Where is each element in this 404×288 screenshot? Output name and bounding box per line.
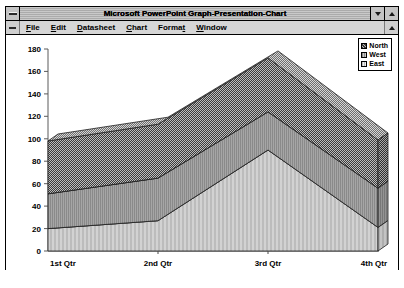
- menu-item-chart[interactable]: Chart: [126, 21, 147, 34]
- minimize-glyph: [375, 12, 381, 16]
- menu-bar: File Edit Datasheet Chart Format Window: [6, 21, 398, 35]
- page-caption: [8, 274, 398, 286]
- restore-glyph: [389, 26, 395, 30]
- legend-label-west: West: [369, 50, 386, 59]
- system-menu-icon[interactable]: [6, 7, 20, 20]
- legend-label-east: East: [369, 59, 384, 68]
- x-tick-label-1: 2nd Qtr: [144, 259, 172, 268]
- legend-swatch-west: [361, 52, 367, 58]
- svg-text:0: 0: [37, 247, 42, 256]
- maximize-icon[interactable]: [384, 7, 398, 20]
- legend-entry-west[interactable]: West: [361, 50, 388, 59]
- svg-text:100: 100: [28, 135, 42, 144]
- menu-item-window[interactable]: Window: [196, 21, 227, 34]
- application-window: Microsoft PowerPoint Graph-Presentation-…: [5, 6, 399, 270]
- svg-text:60: 60: [32, 180, 41, 189]
- screenshot-root: Microsoft PowerPoint Graph-Presentation-…: [0, 0, 404, 288]
- maximize-glyph: [389, 12, 395, 16]
- legend-entry-north[interactable]: North: [361, 41, 388, 50]
- document-system-menu-glyph: [9, 27, 16, 29]
- window-buttons: [370, 7, 398, 20]
- menu-item-file[interactable]: File: [26, 21, 40, 34]
- minimize-icon[interactable]: [370, 7, 384, 20]
- x-axis-tick-labels: 1st Qtr 2nd Qtr 3rd Qtr 4th Qtr: [50, 259, 387, 268]
- chart-canvas[interactable]: 0 20 40 60 80 100 120 140 160 180: [6, 35, 398, 271]
- menu-item-list: File Edit Datasheet Chart Format Window: [20, 21, 384, 34]
- x-tick-label-3: 4th Qtr: [361, 259, 387, 268]
- svg-text:140: 140: [28, 90, 42, 99]
- y-axis-tick-labels: 0 20 40 60 80 100 120 140 160 180: [28, 45, 42, 256]
- restore-icon[interactable]: [384, 21, 398, 34]
- svg-text:20: 20: [32, 225, 41, 234]
- menu-item-datasheet[interactable]: Datasheet: [77, 21, 115, 34]
- svg-text:120: 120: [28, 112, 42, 121]
- chart-legend[interactable]: North West East: [358, 38, 392, 71]
- y-axis-ticks: [44, 49, 48, 251]
- legend-swatch-north: [361, 43, 367, 49]
- menu-item-format[interactable]: Format: [158, 21, 185, 34]
- system-menu-glyph: [9, 12, 17, 15]
- chart-client-area: 0 20 40 60 80 100 120 140 160 180: [6, 35, 398, 271]
- x-tick-label-2: 3rd Qtr: [255, 259, 282, 268]
- svg-text:160: 160: [28, 67, 42, 76]
- svg-text:180: 180: [28, 45, 42, 54]
- legend-entry-east[interactable]: East: [361, 59, 388, 68]
- legend-swatch-east: [361, 61, 367, 67]
- x-tick-label-0: 1st Qtr: [50, 259, 76, 268]
- window-title: Microsoft PowerPoint Graph-Presentation-…: [20, 7, 370, 20]
- document-system-menu-icon[interactable]: [6, 21, 20, 34]
- area-west-side: [378, 181, 388, 227]
- area-north-side: [378, 133, 388, 188]
- legend-label-north: North: [369, 41, 388, 50]
- title-bar: Microsoft PowerPoint Graph-Presentation-…: [6, 7, 398, 21]
- svg-text:80: 80: [32, 157, 41, 166]
- menu-item-edit[interactable]: Edit: [51, 21, 66, 34]
- svg-text:40: 40: [32, 202, 41, 211]
